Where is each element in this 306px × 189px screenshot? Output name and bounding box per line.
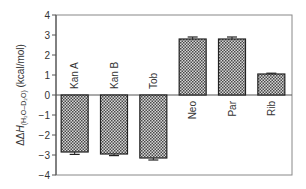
y-tick-label: −3 — [39, 150, 51, 161]
plot-frame — [56, 15, 292, 175]
y-axis: −4−3−2−101234 — [39, 10, 56, 181]
y-tick-label: −4 — [39, 170, 51, 181]
category-label: Par — [227, 100, 238, 116]
bar-chart: −4−3−2−101234 Kan AKan BTobNeoParRib ΔΔH… — [0, 0, 306, 189]
bar-kan-b — [101, 95, 128, 154]
y-tick-label: 0 — [44, 90, 50, 101]
bar-par — [219, 39, 246, 95]
y-tick-label: 1 — [44, 70, 50, 81]
bars — [61, 37, 285, 160]
category-label: Neo — [187, 101, 198, 120]
bar-kan-a — [61, 95, 88, 152]
y-tick-label: 2 — [44, 50, 50, 61]
category-label: Rib — [266, 101, 277, 116]
y-tick-label: 4 — [44, 10, 50, 21]
bar-rib — [258, 74, 285, 95]
category-label: Tob — [148, 72, 159, 89]
y-tick-label: 3 — [44, 30, 50, 41]
y-tick-label: −1 — [39, 110, 51, 121]
category-label: Kan A — [69, 62, 80, 89]
bar-neo — [179, 39, 206, 95]
category-label: Kan B — [109, 61, 120, 89]
y-tick-label: −2 — [39, 130, 51, 141]
y-axis-title: ΔΔH(H₂O–D₂O) (kcal/mol) — [15, 44, 28, 146]
bar-tob — [140, 95, 167, 158]
